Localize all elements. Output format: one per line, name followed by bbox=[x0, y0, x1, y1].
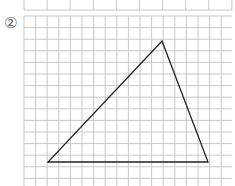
previous-grid bbox=[24, 0, 232, 10]
square-grid bbox=[24, 16, 232, 186]
grid-diagram bbox=[0, 0, 235, 186]
